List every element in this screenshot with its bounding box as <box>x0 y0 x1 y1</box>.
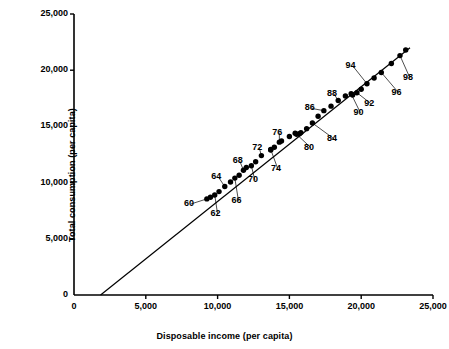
data-point <box>336 98 341 103</box>
data-point <box>403 47 408 52</box>
data-point <box>321 108 326 113</box>
x-axis-tick-label: 15,000 <box>259 301 319 311</box>
data-point <box>272 144 277 149</box>
data-point <box>259 153 264 158</box>
point-annotation: 60 <box>184 198 194 208</box>
data-point <box>379 70 384 75</box>
data-point <box>212 192 217 197</box>
point-annotation: 80 <box>304 142 314 152</box>
x-axis-tick-label: 5,000 <box>116 301 176 311</box>
data-point <box>228 179 233 184</box>
point-annotation: 94 <box>346 60 356 70</box>
data-point <box>354 90 359 95</box>
x-axis-tick-label: 20,000 <box>331 301 391 311</box>
scatter-chart: Total consumption (per capita) Disposabl… <box>0 0 449 349</box>
data-point <box>287 134 292 139</box>
data-point <box>343 93 348 98</box>
data-point <box>304 126 309 131</box>
point-annotation: 76 <box>272 127 282 137</box>
point-annotation: 74 <box>271 163 281 173</box>
data-point <box>328 103 333 108</box>
point-annotation: 92 <box>364 98 374 108</box>
point-annotation: 66 <box>231 195 241 205</box>
data-point <box>298 130 303 135</box>
data-point <box>315 114 320 119</box>
data-point <box>216 189 221 194</box>
y-axis-tick-label: 0 <box>18 289 68 299</box>
point-annotation: 70 <box>248 174 258 184</box>
data-point <box>364 81 369 86</box>
data-point <box>244 165 249 170</box>
point-annotation: 88 <box>327 88 337 98</box>
point-annotation: 98 <box>403 72 413 82</box>
data-point <box>222 184 227 189</box>
x-axis-tick-label: 25,000 <box>403 301 449 311</box>
y-axis-tick-label: 25,000 <box>18 8 68 18</box>
y-axis-tick-label: 20,000 <box>18 64 68 74</box>
data-point <box>371 75 376 80</box>
y-axis-tick-label: 5,000 <box>18 233 68 243</box>
data-point <box>279 138 284 143</box>
data-point <box>397 53 402 58</box>
y-axis-tick-label: 15,000 <box>18 120 68 130</box>
data-point <box>249 163 254 168</box>
point-annotation: 72 <box>252 142 262 152</box>
data-point <box>310 120 315 125</box>
point-annotation: 90 <box>353 107 363 117</box>
point-annotation: 84 <box>327 133 337 143</box>
x-axis-tick-label: 0 <box>44 301 104 311</box>
y-axis-tick-label: 10,000 <box>18 177 68 187</box>
data-point <box>359 87 364 92</box>
point-annotation: 64 <box>211 171 221 181</box>
point-annotation: 62 <box>211 208 221 218</box>
x-axis-tick-label: 10,000 <box>188 301 248 311</box>
point-annotation: 96 <box>392 87 402 97</box>
point-annotation: 86 <box>305 102 315 112</box>
data-point <box>253 159 258 164</box>
data-point <box>389 61 394 66</box>
data-point <box>236 173 241 178</box>
regression-line <box>101 48 410 295</box>
point-annotation: 68 <box>233 155 243 165</box>
